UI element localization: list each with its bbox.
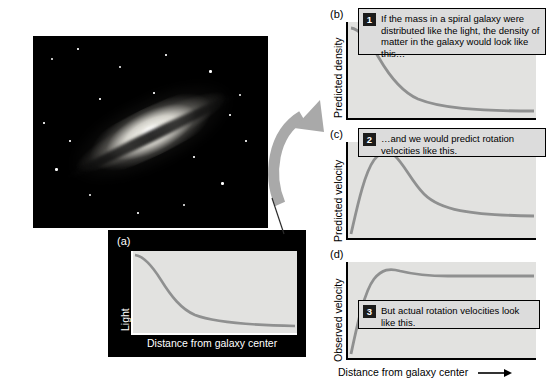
galaxy-photo [33, 36, 268, 228]
bottom-x-axis-label: Distance from galaxy center [338, 366, 468, 378]
dark-matter-rotation-curve-figure: (a) Light Distance from galaxy center (b… [0, 0, 554, 387]
star [51, 58, 53, 60]
panel-a-connector-line [268, 196, 290, 236]
panel-b-x-axis [346, 118, 536, 120]
star [43, 122, 45, 124]
star [55, 168, 58, 171]
bottom-axis-arrow-icon [478, 366, 512, 380]
star [245, 140, 247, 142]
star [119, 66, 121, 68]
panel-d-y-axis-label: Observed velocity [332, 279, 344, 362]
star [193, 156, 195, 158]
callout-3-text: But actual rotation velocities look like… [381, 305, 519, 328]
panel-c-x-axis [346, 238, 536, 240]
star [165, 54, 167, 56]
star [239, 94, 241, 96]
panel-a-plot-area [133, 251, 297, 333]
star [89, 194, 91, 196]
star [221, 182, 224, 185]
callout-1-text: If the mass in a spiral galaxy were dist… [381, 13, 539, 59]
callout-2-text: …and we would predict rotation velocitie… [381, 133, 514, 156]
callout-1-number: 1 [363, 13, 376, 26]
callout-2-number: 2 [363, 133, 376, 146]
panel-a-y-axis-label: Light [119, 308, 131, 331]
panel-d-letter: (d) [330, 248, 343, 260]
callout-3: 3 But actual rotation velocities look li… [358, 300, 540, 329]
panel-a-light-curve [133, 251, 297, 333]
callout-1: 1 If the mass in a spiral galaxy were di… [358, 8, 546, 55]
panel-b-letter: (b) [330, 8, 343, 20]
star [229, 114, 231, 116]
star [183, 204, 185, 206]
panel-d-x-axis [346, 358, 536, 360]
star [99, 98, 101, 100]
panel-a-x-axis-label: Distance from galaxy center [147, 337, 277, 349]
panel-a-x-axis [131, 333, 297, 335]
photo-to-panel-b-arrow-icon [262, 92, 338, 210]
star [153, 92, 155, 94]
star [209, 70, 212, 73]
callout-2: 2 …and we would predict rotation velocit… [358, 128, 546, 157]
callout-3-number: 3 [363, 305, 376, 318]
star [77, 48, 79, 50]
panel-a-letter: (a) [117, 235, 130, 247]
panel-a: (a) Light Distance from galaxy center [108, 230, 306, 357]
star [69, 140, 71, 142]
star [137, 212, 139, 214]
